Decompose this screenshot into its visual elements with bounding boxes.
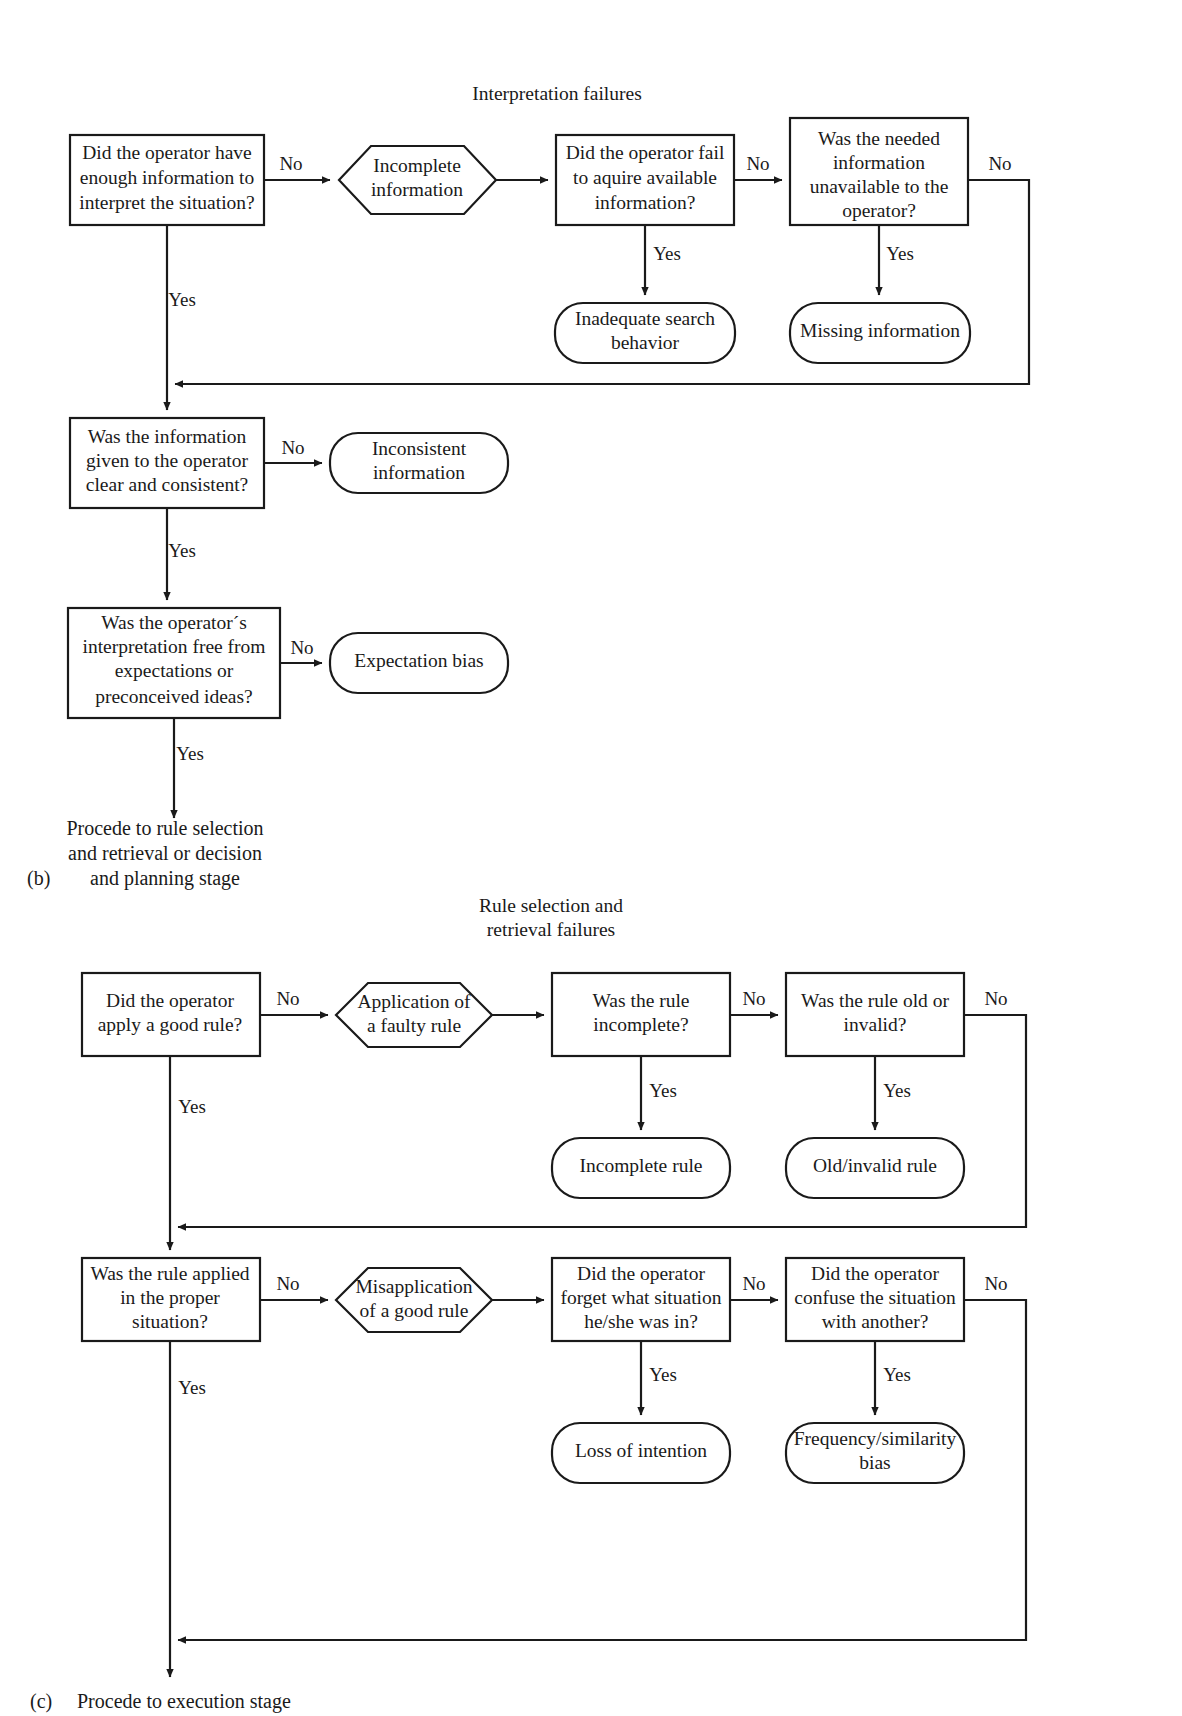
node-c-q3: Was the rule old or invalid?	[786, 973, 964, 1056]
panel-c-exit-line-0: Procede to execution stage	[77, 1690, 291, 1713]
node-b-t1: Inadequate search behavior	[555, 303, 735, 363]
node-c-q5-line-1: forget what situation	[560, 1287, 721, 1308]
node-c-h1-line-0: Application of	[357, 991, 471, 1012]
node-b-t3: Inconsistent information	[330, 433, 508, 493]
edge-label-c-l10: Yes	[649, 1364, 677, 1385]
node-b-q3-line-3: operator?	[842, 200, 916, 221]
node-b-t3-line-0: Inconsistent	[372, 438, 467, 459]
edge-label-b-l5: Yes	[886, 243, 914, 264]
node-b-h1: Incomplete information	[339, 146, 496, 214]
node-b-q2-line-0: Did the operator fail	[566, 142, 725, 163]
node-b-q2: Did the operator fail to aquire availabl…	[556, 135, 734, 225]
edge-label-b-l2: No	[746, 153, 769, 174]
node-b-q3-line-1: information	[833, 152, 925, 173]
node-b-q5-line-3: preconceived ideas?	[95, 686, 253, 707]
node-c-t1: Incomplete rule	[552, 1138, 730, 1198]
node-b-t3-line-1: information	[373, 462, 465, 483]
panel-c-letter: (c)	[30, 1690, 52, 1713]
edge-label-c-l9: No	[984, 1273, 1007, 1294]
panel-b-title: Interpretation failures	[472, 83, 641, 104]
edge-label-c-l5: Yes	[883, 1080, 911, 1101]
edge-label-b-l1: No	[279, 153, 302, 174]
panel-b-exit-line-1: and retrieval or decision	[68, 842, 262, 864]
edge-label-c-l4: Yes	[649, 1080, 677, 1101]
edge-label-b-l7: No	[281, 437, 304, 458]
edge-label-c-l8: No	[742, 1273, 765, 1294]
node-b-t2: Missing information	[790, 303, 970, 363]
node-c-q4-line-0: Was the rule applied	[90, 1263, 249, 1284]
node-c-q1: Did the operator apply a good rule?	[82, 973, 260, 1056]
node-c-q4: Was the rule applied in the proper situa…	[82, 1258, 260, 1341]
node-c-h2: Misapplication of a good rule	[336, 1268, 492, 1332]
node-c-t4-line-1: bias	[859, 1452, 890, 1473]
node-c-q3-line-0: Was the rule old or	[801, 990, 949, 1011]
panel-b-exit-line-2: and planning stage	[90, 867, 240, 890]
node-c-q5-line-0: Did the operator	[577, 1263, 705, 1284]
node-c-q1-line-1: apply a good rule?	[98, 1014, 243, 1035]
node-c-q1-line-0: Did the operator	[106, 990, 234, 1011]
node-b-q1-line-1: enough information to	[80, 167, 254, 188]
node-c-h1-line-1: a faulty rule	[367, 1015, 461, 1036]
node-c-q6-line-0: Did the operator	[811, 1263, 939, 1284]
node-b-q2-line-2: information?	[595, 192, 696, 213]
node-c-t1-line-0: Incomplete rule	[580, 1155, 703, 1176]
node-c-q3-line-1: invalid?	[844, 1014, 907, 1035]
node-b-t4-line-0: Expectation bias	[354, 650, 483, 671]
node-b-q2-line-1: to aquire available	[573, 167, 717, 188]
node-b-h1-line-0: Incomplete	[373, 155, 461, 176]
node-c-h2-line-0: Misapplication	[356, 1276, 473, 1297]
node-c-t3: Loss of intention	[552, 1423, 730, 1483]
node-c-t4-line-0: Frequency/similarity	[794, 1428, 957, 1449]
node-b-q1-line-2: interpret the situation?	[79, 192, 254, 213]
node-c-q5-line-2: he/she was in?	[584, 1311, 698, 1332]
panel-c-title-line-1: retrieval failures	[487, 919, 615, 940]
node-c-t3-line-0: Loss of intention	[575, 1440, 707, 1461]
node-c-h1: Application of a faulty rule	[336, 983, 492, 1047]
node-c-q4-line-2: situation?	[132, 1311, 208, 1332]
node-b-q1: Did the operator have enough information…	[70, 135, 264, 225]
edge-label-b-l10: Yes	[176, 743, 204, 764]
node-b-t4: Expectation bias	[330, 633, 508, 693]
edge-label-c-l6: Yes	[178, 1096, 206, 1117]
node-c-q2-line-0: Was the rule	[593, 990, 690, 1011]
node-b-q1-line-0: Did the operator have	[82, 142, 251, 163]
node-b-t2-line-0: Missing information	[800, 320, 960, 341]
flowchart-figure: Interpretation failures Did the operator…	[0, 0, 1182, 1716]
edge-label-c-l7: No	[276, 1273, 299, 1294]
node-b-q5-line-1: interpretation free from	[83, 636, 266, 657]
edge-label-c-l12: Yes	[178, 1377, 206, 1398]
node-c-q2: Was the rule incomplete?	[552, 973, 730, 1056]
node-b-q4-line-2: clear and consistent?	[86, 474, 248, 495]
edge-label-b-l6: Yes	[168, 289, 196, 310]
panel-c-title-line-0: Rule selection and	[479, 895, 623, 916]
node-c-t2: Old/invalid rule	[786, 1138, 964, 1198]
node-c-t2-line-0: Old/invalid rule	[813, 1155, 937, 1176]
node-b-q5-line-0: Was the operator´s	[101, 612, 247, 633]
node-c-q2-line-1: incomplete?	[593, 1014, 688, 1035]
edge-label-c-l3: No	[984, 988, 1007, 1009]
edge-label-c-l1: No	[276, 988, 299, 1009]
flowchart-canvas: Interpretation failures Did the operator…	[0, 0, 1182, 1716]
node-b-q5: Was the operator´s interpretation free f…	[68, 608, 280, 718]
panel-b-letter: (b)	[27, 867, 50, 890]
edge-label-c-l2: No	[742, 988, 765, 1009]
panel-b: Interpretation failures Did the operator…	[27, 83, 1029, 889]
node-b-h1-line-1: information	[371, 179, 463, 200]
node-c-q6-line-2: with another?	[822, 1311, 929, 1332]
edge-label-b-l3: No	[988, 153, 1011, 174]
node-b-q3: Was the needed information unavailable t…	[790, 118, 968, 225]
node-c-h2-line-1: of a good rule	[360, 1300, 469, 1321]
node-c-q6-line-1: confuse the situation	[794, 1287, 956, 1308]
node-b-q5-line-2: expectations or	[115, 660, 234, 681]
node-c-q6: Did the operator confuse the situation w…	[786, 1258, 964, 1341]
node-b-q4-line-1: given to the operator	[86, 450, 248, 471]
node-c-q5: Did the operator forget what situation h…	[552, 1258, 730, 1341]
edge-label-c-l11: Yes	[883, 1364, 911, 1385]
node-b-q4: Was the information given to the operato…	[70, 418, 264, 508]
node-c-q4-line-1: in the proper	[120, 1287, 220, 1308]
node-b-q3-line-0: Was the needed	[818, 128, 940, 149]
edge-label-b-l9: No	[290, 637, 313, 658]
node-b-t1-line-0: Inadequate search	[575, 308, 715, 329]
node-b-q4-line-0: Was the information	[88, 426, 247, 447]
panel-c: Rule selection and retrieval failures Di…	[30, 895, 1026, 1712]
